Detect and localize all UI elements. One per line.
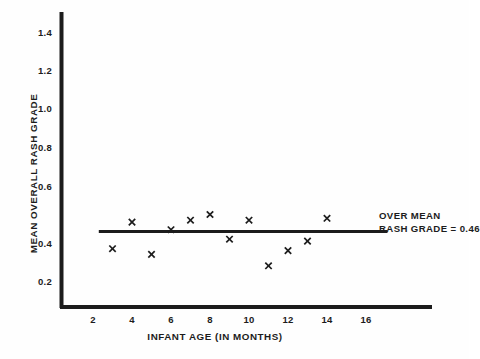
x-tick-label-6: 6 — [168, 314, 174, 325]
data-point — [187, 217, 193, 223]
data-point — [246, 217, 252, 223]
y-tick-label-1-4: 1.4 — [24, 27, 52, 38]
annotation-line-1: OVER MEAN — [379, 210, 480, 223]
data-point — [109, 246, 115, 252]
mean-line-annotation: OVER MEAN RASH GRADE = 0.46 — [379, 210, 480, 235]
data-point — [324, 215, 330, 221]
data-point — [226, 236, 232, 242]
annotation-line-2: RASH GRADE = 0.46 — [379, 223, 480, 236]
data-point — [129, 219, 135, 225]
data-point-markers — [109, 211, 330, 269]
x-tick-label-10: 10 — [243, 314, 254, 325]
data-point — [148, 251, 154, 257]
x-tick-label-12: 12 — [282, 314, 293, 325]
y-axis-title: MEAN OVERALL RASH GRADE — [28, 79, 39, 269]
x-tick-label-16: 16 — [360, 314, 371, 325]
data-point — [207, 211, 213, 217]
x-tick-label-8: 8 — [207, 314, 213, 325]
x-axis-title: INFANT AGE (IN MONTHS) — [0, 331, 430, 342]
data-point — [304, 238, 310, 244]
y-tick-label-0-2: 0.2 — [24, 276, 52, 287]
x-tick-label-2: 2 — [90, 314, 96, 325]
data-point — [265, 263, 271, 269]
data-point — [285, 247, 291, 253]
x-tick-label-14: 14 — [321, 314, 332, 325]
x-tick-label-4: 4 — [129, 314, 135, 325]
y-tick-label-1-2: 1.2 — [24, 65, 52, 76]
